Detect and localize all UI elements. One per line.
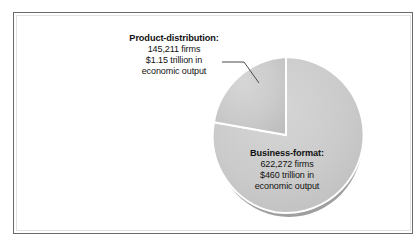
callout-product-distribution: Product-distribution: 145,211 firms $1.1… [108, 33, 240, 77]
callout-business-format: Business-format: 622,272 firms $460 tril… [228, 148, 346, 192]
callout-business-output-label: economic output [228, 181, 346, 192]
callout-product-firms: 145,211 firms [108, 44, 240, 55]
callout-product-output-amount: $1.15 trillion in [108, 55, 240, 66]
callout-product-output-label: economic output [108, 66, 240, 77]
callout-business-title: Business-format: [228, 148, 346, 159]
callout-product-title: Product-distribution: [108, 33, 240, 44]
callout-business-firms: 622,272 firms [228, 159, 346, 170]
callout-business-output-amount: $460 trillion in [228, 170, 346, 181]
